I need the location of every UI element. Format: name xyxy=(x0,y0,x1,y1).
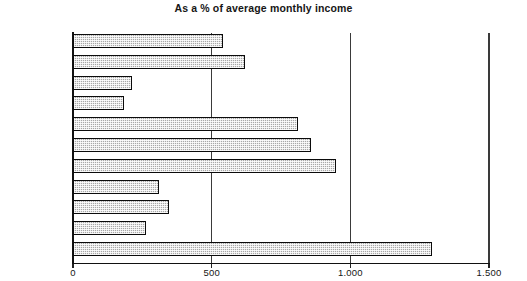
x-tick-label: 1.500 xyxy=(477,267,502,278)
bar-czech-rep xyxy=(73,76,132,90)
x-tick-label: 1.000 xyxy=(338,267,363,278)
bar-romania xyxy=(73,159,336,173)
bar-slovenia xyxy=(73,221,146,235)
x-tick-label: 0 xyxy=(70,267,75,278)
x-tick-label: 500 xyxy=(203,267,219,278)
bar-hungary xyxy=(73,96,124,110)
gridline-1.500 xyxy=(488,33,489,263)
x-axis-line xyxy=(72,263,490,264)
bar-slovakia xyxy=(73,200,169,214)
gridline-1.000 xyxy=(350,33,351,263)
bar-chart: As a % of average monthly income 05001.0… xyxy=(0,0,527,281)
bar-ukraine xyxy=(73,242,432,256)
bar-kazakhstan xyxy=(73,117,298,131)
bar-croatia xyxy=(73,55,245,69)
bar-poland xyxy=(73,138,311,152)
bar-russia xyxy=(73,180,159,194)
chart-title: As a % of average monthly income xyxy=(0,2,527,14)
bar-bulgaria xyxy=(73,34,223,48)
